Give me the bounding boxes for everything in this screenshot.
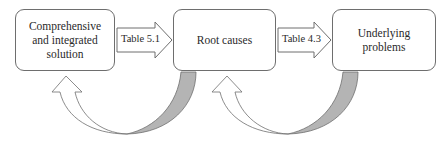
feedback-arrow-1-head: [52, 76, 127, 134]
forward-arrow-1-label: Table 5.1: [121, 33, 160, 44]
node-root-causes: Root causes: [173, 9, 276, 71]
node-solution-label: Comprehensive and integrated solution: [29, 19, 101, 61]
node-root-causes-label: Root causes: [197, 33, 252, 47]
node-underlying-problems: Underlying problems: [332, 9, 436, 71]
node-solution: Comprehensive and integrated solution: [15, 9, 115, 71]
feedback-arrow-1-tail: [127, 72, 196, 134]
feedback-arrow-2-tail: [288, 72, 358, 134]
node-underlying-problems-label: Underlying problems: [358, 26, 410, 54]
feedback-arrow-2-head: [212, 76, 288, 134]
forward-arrow-2-label: Table 4.3: [282, 33, 321, 44]
